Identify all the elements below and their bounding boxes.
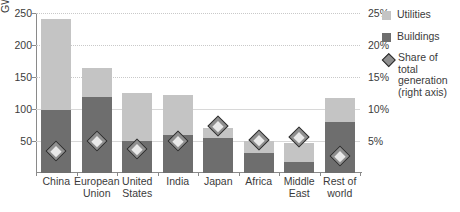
legend-item-label: Share of total generation (right axis) [398,52,460,98]
legend-item[interactable]: Share of total generation (right axis) [382,52,460,98]
y-tick-mark-200 [32,45,36,46]
bar-group[interactable] [203,13,233,173]
y-tick-mark-100 [32,109,36,110]
y-tick-label-100: 100 [14,103,32,115]
y-tick-label-50: 50 [20,135,32,147]
share-marker-inner [172,135,183,146]
bar-group[interactable] [163,13,193,173]
x-tick-mark [279,172,280,176]
x-tick-mark [158,172,159,176]
bar-segment-buildings[interactable] [244,153,274,173]
share-marker-inner [253,134,264,145]
legend-item[interactable]: Utilities [382,9,460,21]
legend-swatch-icon [382,11,391,20]
bar-segment-utilities[interactable] [41,19,71,110]
bar-group[interactable] [122,13,152,173]
bar-group[interactable] [82,13,112,173]
share-marker-inner [334,150,345,161]
y-tick-mark-50 [32,141,36,142]
share-marker-inner [294,131,305,142]
chart-legend: UtilitiesBuildingsShare of total generat… [382,9,460,108]
bar-segment-utilities[interactable] [325,98,355,122]
x-tick-mark [239,172,240,176]
x-tick-mark [360,172,361,176]
y-axis-left: 50100150200250 [0,0,32,212]
share-marker-inner [91,135,102,146]
share-marker-inner [51,145,62,156]
bar-segment-utilities[interactable] [163,95,193,135]
chart-container: GW 50100150200250 5%10%15%20%25% ChinaEu… [0,0,460,212]
y-tick-label-200: 200 [14,39,32,51]
y-tick-mark-150 [32,77,36,78]
plot-area [36,13,360,173]
y-tick-label-250: 250 [14,7,32,19]
legend-diamond-icon [382,53,393,64]
bar-group[interactable] [284,13,314,173]
share-marker-inner [213,121,224,132]
bar-segment-buildings[interactable] [284,162,314,173]
legend-swatch-icon [382,33,391,42]
x-tick-mark [320,172,321,176]
bar-segment-utilities[interactable] [82,68,112,97]
bar-group[interactable] [244,13,274,173]
bar-segment-buildings[interactable] [203,138,233,173]
legend-item[interactable]: Buildings [382,31,460,43]
y-tick-mark-250 [32,13,36,14]
y-tick-label-150: 150 [14,71,32,83]
x-tick-mark [36,172,37,176]
x-tick-label: Rest of world [314,176,366,199]
x-tick-mark [77,172,78,176]
bar-group[interactable] [41,13,71,173]
x-tick-mark [198,172,199,176]
bar-group[interactable] [325,13,355,173]
x-tick-mark [117,172,118,176]
share-marker-inner [132,144,143,155]
bar-segment-utilities[interactable] [122,93,152,141]
legend-item-label: Utilities [397,9,431,21]
legend-item-label: Buildings [397,31,440,43]
y2-tick-label-5%: 5% [368,135,383,147]
